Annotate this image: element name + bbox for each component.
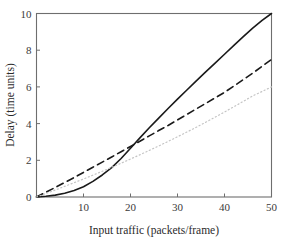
- data-series-group: [37, 14, 272, 198]
- y-tick-label: 4: [26, 118, 32, 130]
- series-solid-curve: [37, 14, 272, 198]
- y-tick-label: 2: [26, 154, 32, 166]
- plot-frame: [37, 14, 272, 198]
- axes-box: [37, 14, 272, 198]
- x-tick-label: 10: [78, 201, 90, 213]
- y-tick-label: 8: [26, 44, 32, 56]
- x-tick-label: 20: [125, 201, 137, 213]
- series-dotted-curve: [37, 87, 272, 197]
- x-axis-tick-labels: 1020304050: [78, 201, 278, 213]
- y-tick-label: 10: [21, 8, 33, 20]
- chart-figure: 1020304050 0246810 Input traffic (packet…: [0, 0, 287, 241]
- series-dashed-curve: [37, 59, 272, 197]
- y-axis-title: Delay (time units): [4, 63, 17, 147]
- x-axis-title: Input traffic (packets/frame): [89, 224, 219, 237]
- x-tick-label: 40: [219, 201, 231, 213]
- x-tick-label: 50: [266, 201, 278, 213]
- y-tick-label: 0: [26, 191, 32, 203]
- y-tick-label: 6: [26, 81, 32, 93]
- chart-canvas: 1020304050 0246810 Input traffic (packet…: [0, 0, 287, 241]
- y-axis-tick-labels: 0246810: [21, 8, 33, 204]
- x-tick-label: 30: [172, 201, 184, 213]
